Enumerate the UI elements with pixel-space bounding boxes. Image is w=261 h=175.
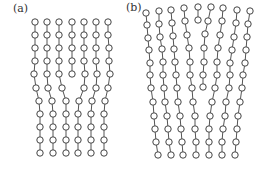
atom-node bbox=[147, 60, 153, 66]
atom-column bbox=[195, 4, 201, 23]
atom-node bbox=[195, 4, 201, 10]
atom-node bbox=[237, 99, 243, 105]
bond-line bbox=[222, 10, 237, 155]
atom-node bbox=[81, 32, 87, 38]
atom-node bbox=[69, 45, 75, 51]
atom-node bbox=[222, 113, 228, 119]
atom-node bbox=[105, 85, 111, 91]
atom-node bbox=[32, 19, 38, 25]
atom-node bbox=[50, 137, 56, 143]
panel-a-label: (a) bbox=[13, 2, 28, 15]
atom-node bbox=[59, 85, 65, 91]
atom-node bbox=[206, 139, 212, 145]
bond-line bbox=[146, 13, 158, 155]
atom-node bbox=[49, 98, 55, 104]
atom-node bbox=[37, 150, 43, 156]
panel-b-label: (b) bbox=[126, 1, 142, 14]
panel-b-lattice bbox=[143, 4, 253, 158]
atom-node bbox=[165, 126, 171, 132]
atom-node bbox=[44, 45, 50, 51]
atom-node bbox=[101, 150, 107, 156]
atom-node bbox=[32, 58, 38, 64]
atom-node bbox=[231, 34, 237, 40]
atom-node bbox=[63, 150, 69, 156]
atom-node bbox=[88, 150, 94, 156]
atom-node bbox=[214, 72, 220, 78]
atom-node bbox=[178, 126, 184, 132]
atom-node bbox=[206, 152, 212, 158]
atom-node bbox=[81, 19, 87, 25]
atom-node bbox=[107, 71, 113, 77]
atom-node bbox=[162, 99, 168, 105]
atom-node bbox=[56, 58, 62, 64]
atom-node bbox=[102, 98, 108, 104]
atom-node bbox=[31, 71, 37, 77]
atom-node bbox=[189, 85, 195, 91]
atom-node bbox=[145, 35, 151, 41]
atom-node bbox=[201, 59, 207, 65]
atom-node bbox=[227, 72, 233, 78]
atom-node bbox=[208, 4, 214, 10]
atom-node bbox=[101, 137, 107, 143]
atom-node bbox=[93, 32, 99, 38]
atom-node bbox=[214, 59, 220, 65]
atom-node bbox=[105, 32, 111, 38]
atom-node bbox=[209, 99, 215, 105]
atom-node bbox=[245, 21, 251, 27]
atom-node bbox=[171, 46, 177, 52]
atom-node bbox=[164, 113, 170, 119]
atom-column bbox=[156, 8, 174, 158]
atom-node bbox=[219, 152, 225, 158]
atom-node bbox=[242, 60, 248, 66]
atom-node bbox=[190, 99, 196, 105]
atom-node bbox=[63, 124, 69, 130]
atom-column bbox=[101, 19, 113, 156]
atom-node bbox=[181, 5, 187, 11]
atom-node bbox=[50, 111, 56, 117]
atom-node bbox=[56, 71, 62, 77]
atom-node bbox=[155, 152, 161, 158]
atom-node bbox=[159, 46, 165, 52]
atom-node bbox=[244, 34, 250, 40]
atom-node bbox=[243, 47, 249, 53]
atom-node bbox=[93, 19, 99, 25]
atom-node bbox=[161, 85, 167, 91]
atom-node bbox=[152, 126, 158, 132]
atom-node bbox=[240, 72, 246, 78]
atom-node bbox=[36, 98, 42, 104]
atom-node bbox=[76, 98, 82, 104]
atom-node bbox=[44, 19, 50, 25]
atom-node bbox=[172, 59, 178, 65]
bond-line bbox=[209, 8, 223, 155]
atom-node bbox=[37, 124, 43, 130]
atom-node bbox=[101, 111, 107, 117]
atom-node bbox=[88, 111, 94, 117]
atom-node bbox=[232, 152, 238, 158]
atom-node bbox=[220, 5, 226, 11]
atom-node bbox=[63, 111, 69, 117]
atom-node bbox=[239, 85, 245, 91]
atom-node bbox=[44, 71, 50, 77]
atom-node bbox=[150, 99, 156, 105]
atom-node bbox=[212, 85, 218, 91]
atom-node bbox=[227, 60, 233, 66]
atom-node bbox=[153, 139, 159, 145]
atom-column bbox=[69, 19, 75, 77]
atom-node bbox=[219, 139, 225, 145]
atom-node bbox=[147, 72, 153, 78]
atom-node bbox=[37, 137, 43, 143]
atom-node bbox=[179, 139, 185, 145]
atom-node bbox=[50, 150, 56, 156]
atom-node bbox=[223, 99, 229, 105]
atom-node bbox=[33, 85, 39, 91]
atom-node bbox=[166, 139, 172, 145]
lattice-diagram bbox=[0, 0, 261, 175]
atom-node bbox=[56, 32, 62, 38]
atom-node bbox=[247, 8, 253, 14]
atom-node bbox=[81, 45, 87, 51]
atom-node bbox=[69, 32, 75, 38]
atom-node bbox=[56, 45, 62, 51]
atom-node bbox=[235, 113, 241, 119]
atom-node bbox=[173, 72, 179, 78]
bond-line bbox=[235, 11, 250, 155]
